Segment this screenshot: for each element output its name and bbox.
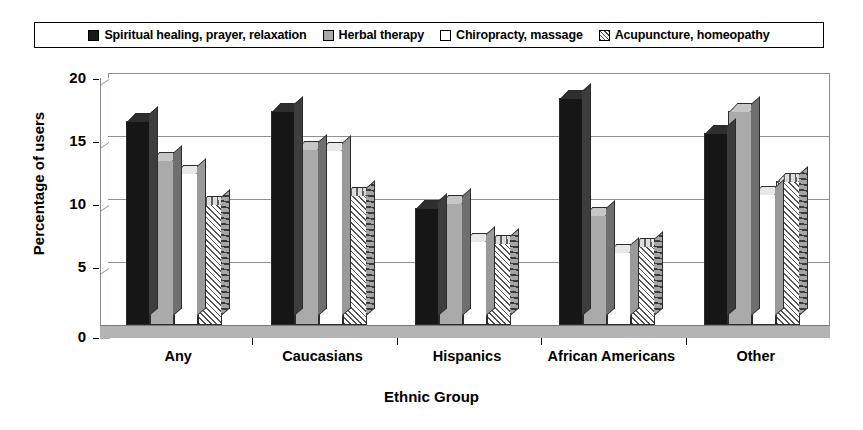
plot-area	[100, 73, 830, 338]
bars-layer	[100, 73, 830, 338]
x-category-label: Any	[164, 348, 191, 364]
bar-side-face	[582, 83, 591, 316]
x-category-label: Hispanics	[433, 348, 502, 364]
chart-legend: Spiritual healing, prayer, relaxation He…	[34, 22, 824, 48]
bar-side-face	[462, 188, 471, 316]
bar-side-face	[438, 193, 447, 316]
bar-side-face	[318, 134, 327, 316]
y-tick-label: 0	[48, 328, 86, 345]
x-axis-title: Ethnic Group	[0, 388, 863, 405]
bar-side-face	[173, 145, 182, 316]
bar-side-face	[606, 201, 615, 316]
legend-label-spiritual-healing: Spiritual healing, prayer, relaxation	[104, 28, 306, 42]
bar-side-face	[221, 189, 230, 316]
bar	[126, 121, 150, 325]
y-tick-mark	[93, 79, 99, 80]
bar-side-face	[486, 226, 495, 316]
bar	[415, 208, 439, 325]
legend-label-herbal-therapy: Herbal therapy	[339, 28, 424, 42]
legend-item-herbal-therapy: Herbal therapy	[323, 28, 424, 42]
bar-side-face	[149, 106, 158, 316]
x-tick-mark	[541, 338, 542, 345]
y-axis-title: Percentage of users	[30, 84, 47, 284]
legend-item-acupuncture-homeopathy: Acupuncture, homeopathy	[599, 28, 770, 42]
bar-side-face	[654, 231, 663, 316]
bar-side-face	[799, 167, 808, 316]
bar-side-face	[751, 96, 760, 316]
legend-item-chiropracty-massage: Chiropracty, massage	[440, 28, 583, 42]
y-tick-mark	[93, 268, 99, 269]
bar-side-face	[727, 119, 736, 316]
bar	[271, 111, 295, 325]
y-tick-label: 5	[48, 258, 86, 275]
y-tick-label: 20	[48, 69, 86, 86]
y-tick-mark	[93, 338, 99, 339]
x-tick-mark	[686, 338, 687, 345]
y-tick-label: 15	[48, 132, 86, 149]
legend-label-chiropracty-massage: Chiropracty, massage	[456, 28, 583, 42]
bar	[559, 98, 583, 325]
bar-side-face	[366, 180, 375, 316]
bar-chart: Spiritual healing, prayer, relaxation He…	[0, 0, 863, 430]
bar-side-face	[294, 96, 303, 316]
bar-side-face	[630, 237, 639, 316]
bar-side-face	[510, 228, 519, 316]
x-tick-mark	[397, 338, 398, 345]
legend-label-acupuncture-homeopathy: Acupuncture, homeopathy	[615, 28, 770, 42]
bar-side-face	[775, 179, 784, 316]
y-tick-mark	[93, 142, 99, 143]
legend-item-spiritual-healing: Spiritual healing, prayer, relaxation	[88, 28, 306, 42]
x-category-label: Other	[736, 348, 775, 364]
legend-swatch-hatch-icon	[599, 30, 610, 41]
bar	[704, 133, 728, 325]
bar-side-face	[342, 135, 351, 316]
bar-side-face	[197, 158, 206, 316]
legend-swatch-black-icon	[88, 30, 99, 41]
x-category-label: Caucasians	[282, 348, 363, 364]
y-tick-mark	[93, 205, 99, 206]
x-category-label: African Americans	[548, 348, 676, 364]
x-tick-mark	[252, 338, 253, 345]
legend-swatch-white-icon	[440, 30, 451, 41]
y-tick-label: 10	[48, 195, 86, 212]
legend-swatch-gray-icon	[323, 30, 334, 41]
